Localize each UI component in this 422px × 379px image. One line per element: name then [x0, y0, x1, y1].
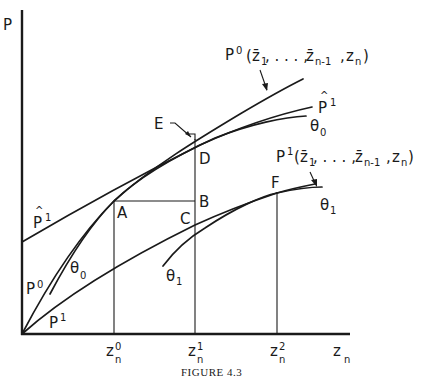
svg-text:1: 1 — [176, 276, 182, 287]
point-c-label: C — [180, 210, 190, 228]
svg-text:0: 0 — [115, 341, 121, 352]
svg-text:2: 2 — [279, 341, 285, 352]
svg-text:z: z — [188, 342, 196, 360]
svg-text:1: 1 — [287, 146, 293, 157]
svg-text:): ) — [363, 47, 369, 65]
svg-text:θ: θ — [310, 117, 319, 135]
svg-text:z̄: z̄ — [306, 47, 314, 65]
p-hat-1-curve — [22, 107, 312, 242]
point-a-label: A — [117, 204, 128, 222]
svg-text:P: P — [26, 280, 35, 298]
svg-text:0: 0 — [37, 279, 43, 290]
x-tick-z2: z 2 n — [270, 341, 285, 365]
svg-text:θ: θ — [70, 259, 79, 277]
svg-text:n: n — [401, 157, 407, 168]
point-f-label: F — [271, 174, 280, 192]
svg-text:,: , — [340, 47, 345, 65]
svg-text:n: n — [355, 56, 361, 67]
svg-text:z: z — [270, 342, 278, 360]
svg-text:1: 1 — [197, 341, 203, 352]
svg-text:1: 1 — [330, 205, 336, 216]
x-axis-label: z n — [333, 342, 350, 365]
x-tick-z1: z 1 n — [188, 341, 203, 365]
p0-arrowhead-icon — [262, 83, 268, 91]
point-b-label: B — [199, 193, 209, 211]
svg-text:(: ( — [294, 148, 300, 166]
y-axis-label: P — [3, 16, 12, 34]
theta-1-label-middle: θ 1 — [166, 267, 182, 287]
svg-text:,: , — [386, 148, 391, 166]
theta-1-label-right: θ 1 — [320, 196, 336, 216]
svg-text:P: P — [276, 148, 285, 166]
svg-text:0: 0 — [236, 45, 242, 56]
svg-text:, . . . ,: , . . . , — [265, 47, 308, 65]
svg-text:n-1: n-1 — [315, 56, 331, 67]
svg-text:n: n — [344, 354, 350, 365]
svg-text:θ: θ — [320, 196, 329, 214]
svg-text:1: 1 — [60, 312, 66, 323]
svg-text:n: n — [279, 354, 285, 365]
theta-0-label-left: θ 0 — [70, 259, 86, 281]
point-e-label: E — [154, 115, 163, 133]
svg-text:, . . . ,: , . . . , — [313, 148, 356, 166]
x-tick-z0: z 0 n — [106, 341, 121, 365]
svg-text:z: z — [392, 148, 400, 166]
p1-label: P 1 — [49, 312, 66, 332]
p1-arrowhead-icon — [311, 179, 317, 187]
p0-label: P 0 — [26, 279, 43, 298]
figure-4-3: P z n A B C D E F P 0 ( z̄ 1 , . . . , z… — [0, 0, 422, 379]
svg-text:0: 0 — [320, 127, 326, 138]
svg-text:1: 1 — [330, 97, 336, 108]
figure-caption: FIGURE 4.3 — [181, 366, 242, 378]
svg-text:P: P — [49, 314, 58, 332]
svg-text:1: 1 — [45, 212, 51, 223]
svg-text:z̄: z̄ — [300, 148, 308, 166]
svg-text:P: P — [318, 99, 327, 117]
p-hat-1-label-left: P ^ 1 — [33, 205, 51, 232]
diagram-canvas: P z n A B C D E F P 0 ( z̄ 1 , . . . , z… — [0, 0, 422, 379]
svg-text:P: P — [33, 214, 42, 232]
svg-text:θ: θ — [166, 267, 175, 285]
theta-0-label-right: θ 0 — [310, 117, 326, 138]
svg-text:n-1: n-1 — [364, 157, 380, 168]
svg-text:z: z — [106, 342, 114, 360]
svg-text:): ) — [408, 148, 414, 166]
svg-text:P: P — [225, 46, 234, 64]
p1-function-label: P 1 ( z̄ 1 , . . . , z̄ n-1 , z n ) — [276, 146, 414, 168]
svg-text:z̄: z̄ — [355, 148, 363, 166]
svg-text:z̄: z̄ — [252, 47, 260, 65]
svg-text:n: n — [115, 354, 121, 365]
svg-text:(: ( — [246, 47, 252, 65]
p0-function-label: P 0 ( z̄ 1 , . . . , z̄ n-1 , z n ) — [225, 45, 369, 67]
svg-text:z: z — [333, 342, 341, 360]
svg-text:z: z — [346, 47, 354, 65]
p-hat-1-label-right: P ^ 1 — [318, 90, 336, 117]
point-d-label: D — [199, 150, 211, 168]
svg-text:^: ^ — [320, 90, 328, 101]
svg-text:n: n — [197, 354, 203, 365]
svg-text:0: 0 — [80, 270, 86, 281]
svg-text:^: ^ — [35, 205, 43, 216]
